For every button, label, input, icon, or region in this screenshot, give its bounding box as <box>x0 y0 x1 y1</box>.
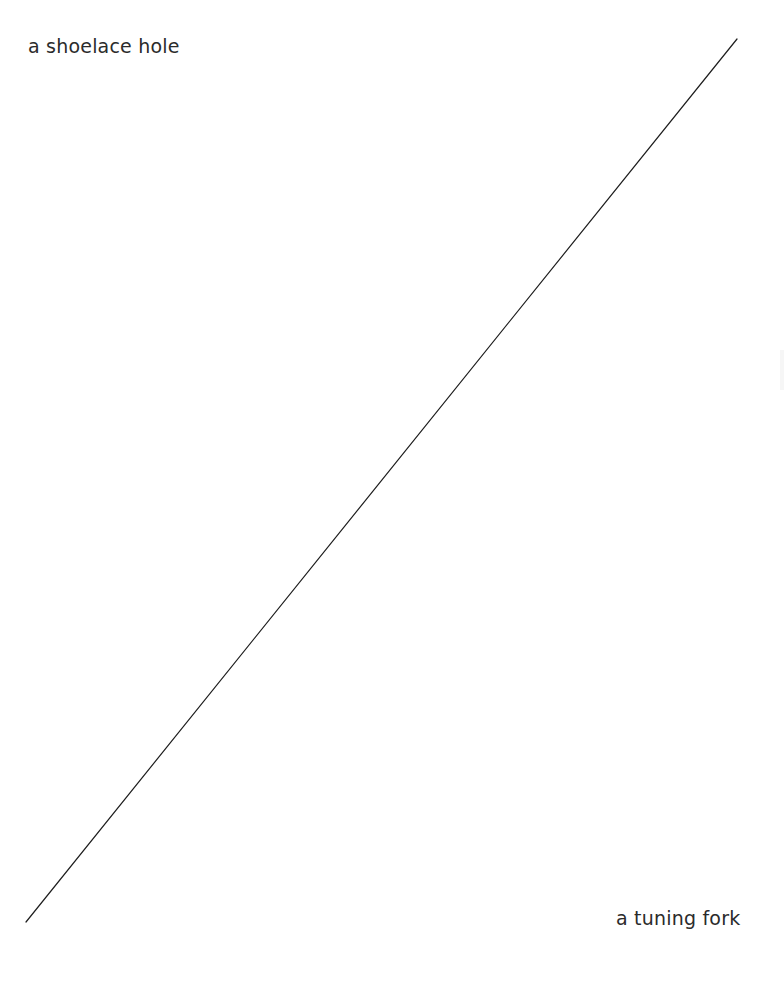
label-shoelace-hole: a shoelace hole <box>28 35 180 57</box>
diagram-canvas: a shoelace hole a tuning fork <box>0 0 784 996</box>
connector-line <box>0 0 784 996</box>
edge-shade <box>780 350 784 390</box>
label-tuning-fork: a tuning fork <box>616 907 740 929</box>
